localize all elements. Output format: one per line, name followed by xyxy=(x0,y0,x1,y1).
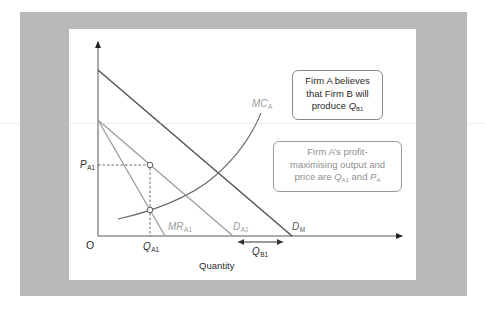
marginal-cost-curve xyxy=(118,113,261,219)
belief-line-3: produce QB1 xyxy=(293,100,382,114)
mr-a1-label: MRA1 xyxy=(168,222,192,232)
origin-label: O xyxy=(86,240,94,251)
price-a1-label: PA1 xyxy=(80,160,95,170)
market-demand-curve xyxy=(98,70,292,236)
mc-a-label: MCA xyxy=(252,99,272,109)
scan-artifact-line xyxy=(0,123,485,124)
figure-canvas: O Quantity PA1 QA1 QB1 MCA MRA1 DA1 DM F… xyxy=(0,0,485,314)
optimum-line-2: maximising output and xyxy=(274,159,401,172)
marginal-revenue-curve xyxy=(98,120,165,236)
belief-line-2: that Firm B will xyxy=(293,88,382,101)
belief-line-1: Firm A believes xyxy=(293,75,382,88)
optimum-annotation-box: Firm A’s profit- maximising output and p… xyxy=(273,141,402,192)
quantity-b1-label: QB1 xyxy=(252,247,268,257)
quantity-a1-label: QA1 xyxy=(143,242,159,252)
belief-annotation-box: Firm A believes that Firm B will produce… xyxy=(292,70,383,120)
x-axis-title: Quantity xyxy=(199,261,234,271)
mc-mr-intersection-marker xyxy=(147,207,153,213)
demand-point-marker xyxy=(147,162,153,168)
optimum-line-3: price are QA1 and PA xyxy=(274,171,401,185)
optimum-line-1: Firm A’s profit- xyxy=(274,146,401,159)
d-m-label: DM xyxy=(292,222,305,232)
diagram-svg xyxy=(0,0,485,314)
d-a1-label: DA1 xyxy=(233,222,249,232)
